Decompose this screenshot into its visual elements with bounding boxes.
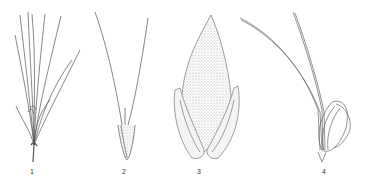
- panel-2-spikelet: [95, 12, 148, 160]
- panel-1-leaf-tuft: [15, 12, 80, 162]
- panel-4-floret: [240, 12, 350, 162]
- panel-3-lemma: [174, 15, 239, 159]
- panel-2-label: 2: [122, 168, 126, 175]
- panel-1-label: 1: [30, 168, 34, 175]
- panel-4-label: 4: [322, 168, 326, 175]
- illustration-drawing: [0, 0, 365, 189]
- botanical-illustration: 1 2 3 4: [0, 0, 365, 189]
- panel-3-label: 3: [197, 168, 201, 175]
